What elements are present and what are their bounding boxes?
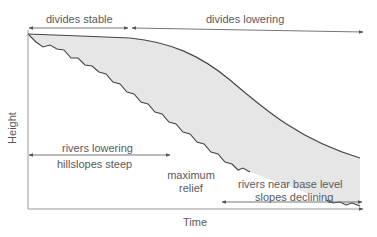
hillslopes-steep-label: hillslopes steep <box>57 158 132 170</box>
divides-lowering-label: divides lowering <box>206 13 284 25</box>
rivers-near-base-level-label: rivers near base level <box>238 178 343 190</box>
divides-lowering-arrow <box>132 28 363 32</box>
y-axis-label: Height <box>6 108 18 148</box>
x-axis-label: Time <box>183 216 207 228</box>
relief-label: relief <box>165 182 217 194</box>
maximum-label: maximum <box>165 169 217 181</box>
divides-stable-label: divides stable <box>46 13 113 25</box>
rivers-lowering-label: rivers lowering <box>62 142 133 154</box>
slopes-declining-label: slopes declining <box>255 191 333 203</box>
